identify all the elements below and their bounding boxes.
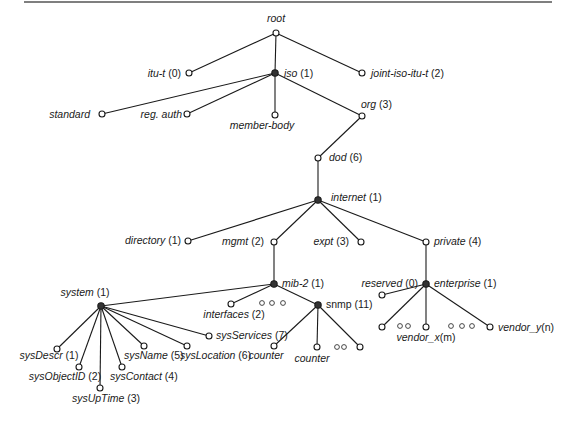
node-name: dod [329, 151, 348, 163]
node-label-standard: standard [49, 108, 91, 120]
node-label-sysLocation: sysLocation (6) [180, 349, 251, 361]
node-private-icon[interactable] [423, 239, 429, 245]
node-label-interfaces: interfaces (2) [203, 308, 264, 320]
node-name: system [60, 286, 94, 298]
node-label-reg-auth: reg. auth [141, 108, 183, 120]
node-counter-2-icon[interactable] [314, 344, 320, 350]
node-number: (1) [297, 67, 313, 79]
node-name: sysLocation [180, 349, 236, 361]
node-name: enterprise [434, 277, 481, 289]
node-itu-t-icon[interactable] [186, 70, 192, 76]
node-number: (5) [168, 349, 184, 361]
node-dod-icon[interactable] [315, 155, 321, 161]
node-name: counter [294, 352, 330, 364]
edge-system-to-sysDescr [57, 306, 101, 349]
node-reserved-icon[interactable] [379, 292, 385, 298]
node-name: mib-2 [282, 277, 308, 289]
node-mib-2-icon[interactable] [271, 281, 277, 287]
node-label-expt: expt (3) [313, 235, 349, 247]
node-name: mgmt [222, 235, 249, 247]
node-number: (1) [63, 349, 79, 361]
node-number: (2) [428, 67, 444, 79]
node-org-icon[interactable] [359, 113, 365, 119]
node-label-iso: iso (1) [284, 67, 313, 79]
node-sysUpTime-icon[interactable] [97, 385, 103, 391]
edge-root-to-iso [275, 33, 276, 73]
node-iso-icon[interactable] [272, 70, 278, 76]
edge-snmp-to-snmp-c3 [318, 305, 360, 347]
node-number: (6) [347, 151, 363, 163]
node-label-counter-2: counter [294, 352, 330, 364]
node-label-joint-iso-itu-t: joint-iso-itu-t (2) [369, 67, 444, 79]
node-number: (4) [162, 370, 178, 382]
node-name: internet [331, 191, 367, 203]
node-label-system: system (1) [60, 286, 109, 298]
node-number: (2) [248, 235, 264, 247]
node-name: sysDescr [20, 349, 64, 361]
node-label-enterprise: enterprise (1) [434, 277, 496, 289]
node-number: (3) [124, 392, 140, 404]
node-member-body-icon[interactable] [272, 112, 278, 118]
edge-iso-to-org [275, 73, 362, 116]
node-reg-auth-icon[interactable] [184, 111, 190, 117]
node-internet-icon[interactable] [315, 197, 321, 203]
node-root-icon[interactable] [273, 30, 279, 36]
node-name: private [433, 235, 466, 247]
node-label-sysContact: sysContact (4) [110, 370, 178, 382]
edge-snmp-to-counter-2 [317, 305, 318, 347]
ellipsis-dot-icon [260, 301, 265, 306]
node-name: sysServices [216, 329, 273, 341]
node-number: (m) [440, 331, 456, 343]
node-label-sysDescr: sysDescr (1) [20, 349, 79, 361]
node-name: directory [125, 234, 166, 246]
node-interfaces-icon[interactable] [228, 301, 234, 307]
node-name: sysContact [110, 370, 163, 382]
node-vendor_x-icon[interactable] [423, 324, 429, 330]
node-label-sysObjectID: sysObjectID (2) [29, 370, 101, 382]
node-standard-icon[interactable] [99, 111, 105, 117]
node-label-private: private (4) [433, 235, 481, 247]
node-number: (0) [165, 67, 181, 79]
edge-iso-to-reg-auth [187, 73, 275, 114]
node-number: (1) [481, 277, 497, 289]
node-name: sysUpTime [72, 392, 125, 404]
node-name: interfaces [203, 308, 249, 320]
node-name: reg. auth [141, 108, 183, 120]
node-snmp-icon[interactable] [315, 302, 321, 308]
node-number: (1) [94, 286, 110, 298]
node-label-sysUpTime: sysUpTime (3) [72, 392, 140, 404]
node-directory-icon[interactable] [185, 238, 191, 244]
node-number: (0) [402, 277, 418, 289]
ellipsis-dot-icon [270, 301, 275, 306]
node-name: standard [49, 108, 91, 120]
ellipsis-dot-icon [406, 324, 411, 329]
node-sysServices-icon[interactable] [206, 333, 212, 339]
node-enterprise-icon[interactable] [423, 281, 429, 287]
node-number: (3) [333, 235, 349, 247]
node-name: joint-iso-itu-t [369, 67, 429, 79]
edge-system-to-sysObjectID [79, 306, 101, 367]
node-label-mib-2: mib-2 (1) [282, 277, 324, 289]
edge-root-to-itu-t [189, 33, 276, 73]
node-vendor_y-icon[interactable] [487, 324, 493, 330]
oid-tree-diagram: rootitu-t (0)iso (1)joint-iso-itu-t (2)s… [0, 0, 572, 430]
node-joint-iso-itu-t-icon[interactable] [359, 70, 365, 76]
node-mgmt-icon[interactable] [271, 239, 277, 245]
node-snmp-c3-icon[interactable] [357, 344, 363, 350]
node-system-icon[interactable] [98, 303, 104, 309]
node-name: counter [248, 349, 284, 361]
node-vendor-a-icon[interactable] [379, 324, 385, 330]
node-name: expt [313, 235, 334, 247]
edge-enterprise-to-vendor_y [426, 284, 490, 327]
ellipsis-dot-icon [449, 324, 454, 329]
node-label-dod: dod (6) [329, 151, 362, 163]
node-label-sysServices: sysServices (7) [216, 329, 288, 341]
ellipsis-dot-icon [398, 324, 403, 329]
node-name: iso [284, 67, 298, 79]
node-label-snmp: snmp (11) [326, 298, 373, 310]
node-expt-icon[interactable] [358, 239, 364, 245]
node-name: sysObjectID [29, 370, 86, 382]
node-label-directory: directory (1) [125, 234, 181, 246]
node-number: (n) [541, 321, 554, 333]
node-label-member-body: member-body [230, 119, 295, 131]
